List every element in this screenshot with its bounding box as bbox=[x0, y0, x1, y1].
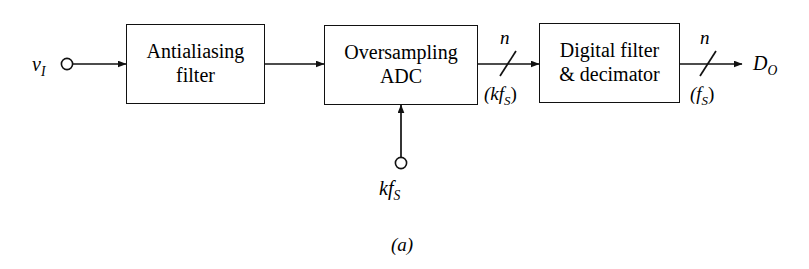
bus-rate-adc-close: ) bbox=[511, 83, 517, 104]
input-terminal-label: vI bbox=[32, 54, 45, 79]
output-terminal-label: DO bbox=[753, 53, 777, 78]
input-terminal-subscript: I bbox=[41, 64, 46, 79]
block-digital-filter-decimator-line1: Digital filter bbox=[559, 39, 660, 63]
output-terminal-subscript: O bbox=[767, 63, 777, 78]
bus-rate-adc-prefix: (kf bbox=[484, 83, 504, 104]
block-oversampling-adc-line2: ADC bbox=[344, 65, 457, 89]
block-antialiasing-filter-line1: Antialiasing bbox=[147, 40, 245, 64]
clock-input-label: kfS bbox=[379, 178, 400, 203]
input-terminal-name: v bbox=[32, 53, 41, 75]
bus-width-label-adc-output: n bbox=[500, 28, 510, 47]
block-antialiasing-filter[interactable]: Antialiasing filter bbox=[126, 24, 265, 104]
bus-rate-label-adc-output: (kfS) bbox=[484, 84, 517, 108]
block-oversampling-adc[interactable]: Oversampling ADC bbox=[324, 25, 478, 105]
block-oversampling-adc-line1: Oversampling bbox=[344, 41, 457, 65]
bus-width-label-decimator-output: n bbox=[700, 28, 710, 47]
block-antialiasing-filter-line2: filter bbox=[147, 64, 245, 88]
output-terminal-name: D bbox=[753, 52, 767, 74]
block-digital-filter-decimator-line2: & decimator bbox=[559, 63, 660, 87]
bus-rate-decimator-close: ) bbox=[708, 83, 714, 104]
clock-label-subscript: S bbox=[393, 188, 400, 203]
clock-label-prefix: kf bbox=[379, 177, 393, 199]
block-diagram-figure: vI Antialiasing filter Oversampling ADC … bbox=[0, 0, 809, 269]
block-digital-filter-decimator[interactable]: Digital filter & decimator bbox=[539, 23, 680, 103]
input-terminal-circle bbox=[61, 58, 72, 69]
bus-rate-decimator-prefix: (f bbox=[690, 83, 702, 104]
clock-terminal-circle bbox=[395, 157, 406, 168]
bus-rate-label-decimator-output: (fS) bbox=[690, 84, 714, 108]
figure-caption: (a) bbox=[391, 234, 413, 256]
